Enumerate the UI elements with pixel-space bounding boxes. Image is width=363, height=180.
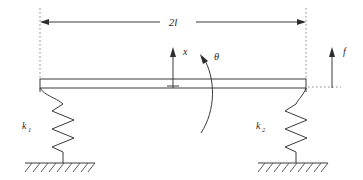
span-dimension-label: 2l — [169, 16, 178, 28]
spring-left-label-subscript: 1 — [28, 126, 31, 133]
span-arrowhead-left-icon — [40, 19, 49, 25]
spring-right-label: k — [256, 120, 261, 131]
spring-left-coils — [52, 104, 74, 152]
spring-right-coils — [285, 104, 307, 152]
rotation-arrowhead-icon — [200, 54, 208, 64]
spring-left-label: k — [22, 120, 27, 131]
ground-hatching-right — [258, 163, 328, 172]
rotation-arc — [201, 57, 213, 133]
ground-hatching-left — [25, 163, 95, 172]
force-arrowhead-icon — [329, 47, 335, 57]
diagram-canvas: 2l x θ f k 1 — [0, 0, 363, 180]
span-arrowhead-right-icon — [297, 19, 306, 25]
displacement-arrowhead-icon — [170, 47, 176, 57]
displacement-label: x — [182, 46, 188, 57]
force-label: f — [343, 46, 347, 57]
beam-spring-diagram: 2l x θ f k 1 — [0, 0, 363, 180]
spring-left-connector — [40, 88, 63, 104]
spring-right-label-subscript: 2 — [262, 126, 266, 133]
rotation-label: θ — [214, 51, 219, 62]
spring-right-connector — [296, 88, 306, 104]
